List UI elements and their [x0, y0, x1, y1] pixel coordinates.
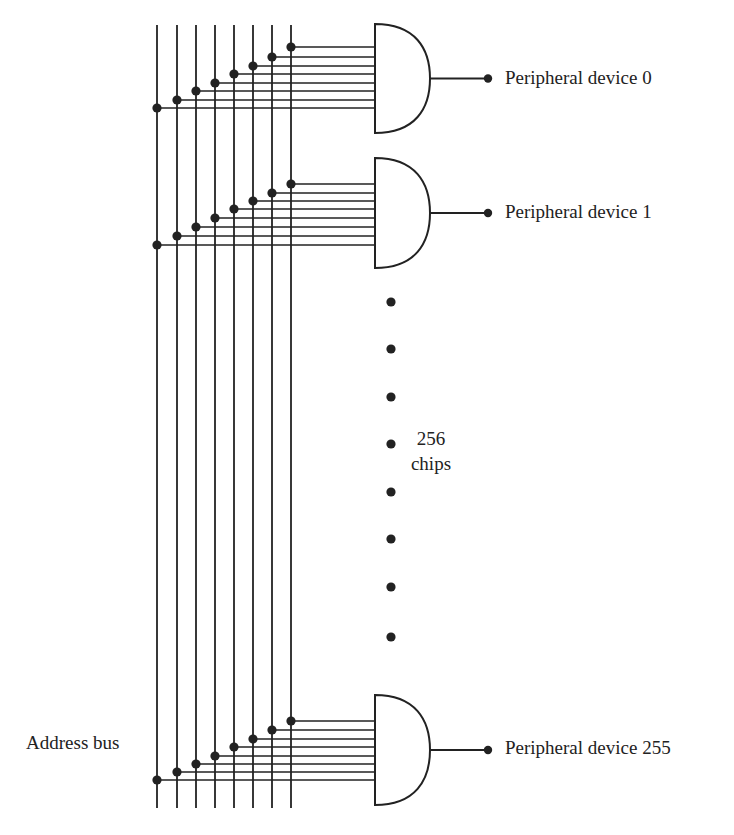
peripheral-device-255-label: Peripheral device 255 — [505, 738, 671, 757]
junction-dot-7 — [286, 716, 295, 725]
junction-dot-1 — [172, 231, 181, 240]
output-terminal-dot — [484, 209, 492, 217]
junction-dot-2 — [191, 86, 200, 95]
junction-dot-2 — [191, 759, 200, 768]
junction-dot-1 — [172, 95, 181, 104]
output-terminal-dot — [484, 74, 492, 82]
and-gate-body — [375, 695, 430, 805]
ellipsis-dot-3 — [386, 439, 395, 448]
junction-dot-6 — [267, 188, 276, 197]
junction-dot-0 — [152, 775, 161, 784]
ellipsis-dot-2 — [386, 392, 395, 401]
junction-dot-4 — [229, 742, 238, 751]
address-decoder-diagram — [0, 0, 734, 835]
ellipsis-dot-5 — [386, 534, 395, 543]
gate-1 — [152, 158, 492, 268]
junction-dot-3 — [210, 751, 219, 760]
ellipsis-dot-4 — [386, 487, 395, 496]
gate-255 — [152, 695, 492, 805]
junction-dot-5 — [248, 61, 257, 70]
chip-count-unit: chips — [408, 451, 454, 476]
junction-dot-1 — [172, 767, 181, 776]
peripheral-device-0-label: Peripheral device 0 — [505, 68, 652, 87]
junction-dot-6 — [267, 52, 276, 61]
output-terminal-dot — [484, 746, 492, 754]
junction-dot-0 — [152, 103, 161, 112]
junction-dot-6 — [267, 725, 276, 734]
junction-dot-5 — [248, 734, 257, 743]
ellipsis-dots — [386, 297, 395, 641]
chip-count-label: 256 chips — [408, 426, 454, 476]
chip-count-number: 256 — [408, 426, 454, 451]
address-bus-label: Address bus — [26, 733, 119, 752]
ellipsis-dot-0 — [386, 297, 395, 306]
ellipsis-dot-1 — [386, 344, 395, 353]
junction-dot-3 — [210, 213, 219, 222]
junction-dot-0 — [152, 240, 161, 249]
gate-0 — [152, 24, 492, 133]
junction-dot-5 — [248, 196, 257, 205]
junction-dot-4 — [229, 204, 238, 213]
and-gate-body — [375, 158, 430, 268]
junction-dot-7 — [286, 179, 295, 188]
and-gate-body — [375, 24, 430, 133]
junction-dot-3 — [210, 78, 219, 87]
address-bus-lines — [157, 25, 291, 808]
ellipsis-dot-7 — [386, 632, 395, 641]
junction-dot-2 — [191, 222, 200, 231]
and-gates — [152, 24, 492, 805]
junction-dot-7 — [286, 42, 295, 51]
ellipsis-dot-6 — [386, 582, 395, 591]
peripheral-device-1-label: Peripheral device 1 — [505, 202, 652, 221]
junction-dot-4 — [229, 69, 238, 78]
